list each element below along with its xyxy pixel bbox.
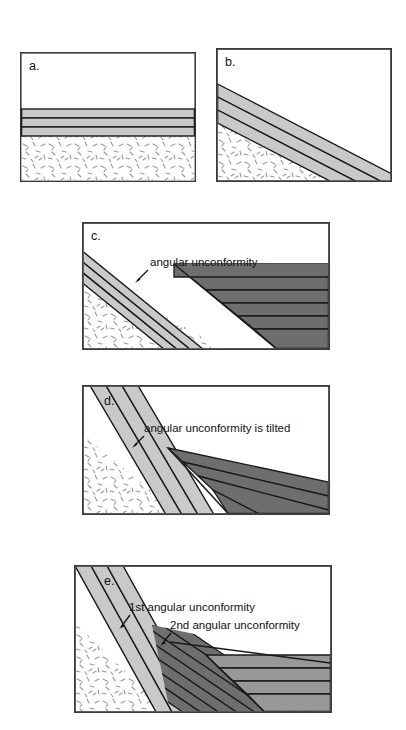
panel-a-caption: a. bbox=[29, 59, 39, 73]
panel-d-caption: d. bbox=[104, 394, 114, 408]
panel-e-annotation-1-label: 1st angular unconformity bbox=[129, 601, 255, 613]
panel-c-caption: c. bbox=[91, 229, 101, 243]
panel-c: c. angular unconformity bbox=[82, 222, 330, 350]
panel-d: d. angular unconformity is tilted bbox=[82, 385, 330, 515]
panel-d-annotation-label: angular unconformity is tilted bbox=[144, 422, 290, 434]
panel-b-caption: b. bbox=[225, 55, 235, 69]
panel-e-annotation-2-label: 2nd angular unconformity bbox=[170, 619, 300, 631]
angular-unconformity-figure: a. bbox=[0, 0, 406, 730]
panel-e: e. 1st angular unconformity 2nd angular … bbox=[74, 565, 332, 713]
panel-c-annotation-label: angular unconformity bbox=[150, 256, 258, 268]
panel-a: a. bbox=[20, 52, 196, 182]
panel-b: b. bbox=[216, 48, 392, 182]
panel-e-caption: e. bbox=[104, 574, 114, 588]
